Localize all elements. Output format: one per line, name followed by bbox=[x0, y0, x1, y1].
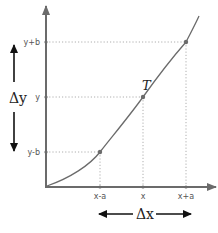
function-curve bbox=[47, 16, 199, 186]
axis-tick-dots bbox=[44, 40, 187, 188]
guide-lines bbox=[46, 42, 186, 187]
x-tick-label-right: x+a bbox=[178, 192, 194, 201]
y-tick-label-mid: y bbox=[35, 93, 40, 102]
delta-x-indicator: Δx bbox=[99, 206, 191, 222]
delta-x-label: Δx bbox=[136, 206, 154, 222]
point-upper bbox=[184, 40, 188, 44]
tick-dot-x bbox=[141, 185, 144, 188]
y-tick-label-top: y+b bbox=[23, 38, 40, 47]
point-T-label: T bbox=[142, 78, 152, 93]
tick-dot-y-plus-b bbox=[44, 40, 47, 43]
tick-dot-x-plus-a bbox=[184, 185, 187, 188]
point-T bbox=[141, 95, 145, 99]
tick-dot-y-minus-b bbox=[44, 150, 47, 153]
x-tick-label-left: x-a bbox=[94, 192, 107, 201]
tick-dot-x-minus-a bbox=[98, 185, 101, 188]
delta-y-label: Δy bbox=[9, 90, 27, 106]
tick-dot-y bbox=[44, 95, 47, 98]
derivative-diagram: y+b y y-b x-a x x+a T Δy Δx bbox=[0, 0, 218, 233]
point-lower bbox=[98, 150, 102, 154]
x-tick-label-mid: x bbox=[141, 192, 146, 201]
delta-y-indicator: Δy bbox=[9, 45, 27, 151]
y-tick-label-bottom: y-b bbox=[27, 148, 40, 157]
